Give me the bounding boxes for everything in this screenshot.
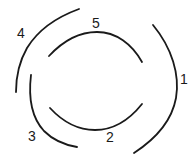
arc-2-label: 2 xyxy=(106,129,114,145)
arc-2 xyxy=(50,104,142,130)
arc-diagram: 1 2 3 4 5 xyxy=(0,0,196,158)
arc-4 xyxy=(16,9,79,92)
arc-1-label: 1 xyxy=(180,71,188,87)
arc-1 xyxy=(134,25,177,153)
arc-3-label: 3 xyxy=(28,128,36,144)
arc-5 xyxy=(49,32,142,62)
arc-4-label: 4 xyxy=(17,25,25,41)
arc-5-label: 5 xyxy=(92,15,100,31)
